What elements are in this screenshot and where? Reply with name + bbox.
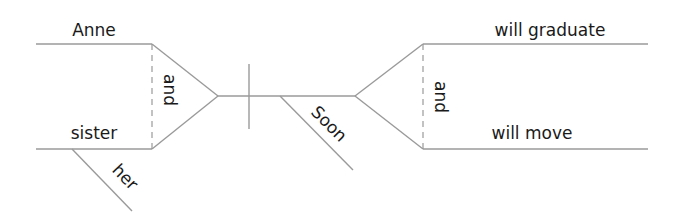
- subject-word-1: Anne: [72, 20, 116, 40]
- predicate-word-1: will graduate: [495, 20, 606, 40]
- subject-word-2: sister: [71, 123, 118, 143]
- predicate-fork-lower: [355, 96, 423, 149]
- diagram-svg: Anne sister her Soon and and will gradua…: [0, 0, 683, 218]
- predicate-conjunction-word: and: [431, 81, 451, 113]
- modifier-word-her: her: [108, 160, 142, 194]
- predicate-fork-upper: [355, 44, 423, 96]
- subject-conjunction-word: and: [160, 74, 180, 106]
- predicate-word-2: will move: [492, 123, 573, 143]
- modifier-word-soon: Soon: [307, 102, 351, 146]
- sentence-diagram: Anne sister her Soon and and will gradua…: [0, 0, 683, 218]
